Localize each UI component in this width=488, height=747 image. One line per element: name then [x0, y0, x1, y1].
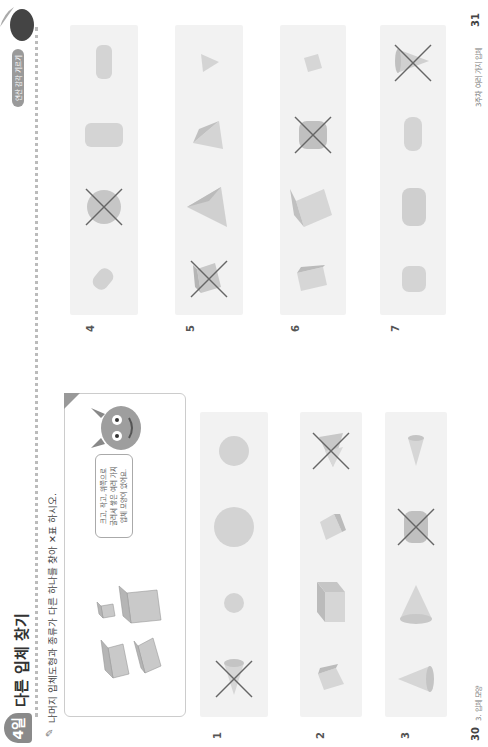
problem-number: 3	[400, 732, 411, 739]
problem-5-row	[175, 25, 243, 315]
choice-pyramid-large[interactable]	[175, 171, 243, 243]
cylinder-icon	[92, 43, 116, 83]
choice-cone[interactable]	[385, 641, 447, 717]
triangular-prism-icon	[313, 431, 349, 471]
choice-pyramid-small[interactable]	[175, 27, 243, 99]
header-dotted-divider	[35, 27, 38, 717]
bubble-line: 입체 모양이 있어요.	[119, 461, 129, 531]
problem-number: 1	[212, 732, 223, 739]
choice-prism[interactable]	[175, 243, 243, 315]
cube-icon	[314, 664, 348, 694]
choice-cuboid[interactable]	[300, 489, 362, 565]
cone-icon	[396, 581, 436, 625]
cuboid-icon	[295, 263, 331, 295]
choice-sphere[interactable]	[200, 413, 268, 489]
cube-icon	[290, 183, 336, 231]
choice-cone[interactable]	[380, 27, 446, 99]
monster-mascot-icon	[87, 400, 147, 458]
day-badge: 4일	[4, 713, 32, 743]
problem-2-row	[300, 412, 362, 717]
instruction-text: 나머지 입체도형과 종류가 다른 하나를 찾아 ✕표 하시오.	[45, 493, 59, 723]
choice-cone-large[interactable]	[385, 565, 447, 641]
choice-sphere-small[interactable]	[200, 565, 268, 641]
cylinder-icon	[398, 115, 428, 155]
prism-icon	[191, 259, 227, 299]
choice-cube-large[interactable]	[280, 171, 346, 243]
choice-cube-small[interactable]	[280, 27, 346, 99]
choice-cone-small[interactable]	[385, 413, 447, 489]
example-shapes	[83, 568, 173, 688]
problem-number: 7	[390, 325, 401, 332]
cylinder-icon	[293, 115, 333, 155]
mascot-corner-icon	[0, 3, 36, 47]
choice-cone[interactable]	[200, 641, 268, 717]
problem-number: 2	[315, 732, 326, 739]
page-title: 다른 입체 찾기	[10, 613, 31, 707]
right-footer-label: 3주차 여러 가지 입체	[473, 48, 483, 107]
sphere-icon	[212, 505, 256, 549]
pencil-icon: ✎	[44, 729, 55, 737]
choice-cylinder-tall[interactable]	[380, 171, 446, 243]
example-box: 크고, 작고, 위쪽으로 굴러서 쌓은 여러 가지 입체 모양이 있어요.	[64, 393, 186, 717]
speech-bubble: 크고, 작고, 위쪽으로 굴러서 쌓은 여러 가지 입체 모양이 있어요.	[95, 454, 133, 538]
right-page-number: 31	[470, 13, 481, 27]
choice-pyramid[interactable]	[175, 99, 243, 171]
sphere-icon	[84, 187, 124, 227]
cylinder-icon	[396, 262, 430, 296]
choice-cuboid-large[interactable]	[300, 565, 362, 641]
problem-4-row	[70, 25, 138, 315]
choice-cube[interactable]	[300, 641, 362, 717]
cone-icon	[404, 434, 428, 468]
problem-1-row	[200, 412, 268, 717]
problem-number: 5	[185, 325, 196, 332]
problem-6-row	[280, 25, 346, 315]
cylinder-icon	[396, 507, 436, 547]
cuboid-icon	[316, 510, 346, 544]
choice-cylinder-flat[interactable]	[380, 99, 446, 171]
left-footer-label: 3. 입체 모양	[473, 686, 483, 721]
choice-sphere-large[interactable]	[200, 489, 268, 565]
cube-icon	[300, 50, 326, 76]
choice-sphere[interactable]	[70, 171, 138, 243]
choice-cylinder-lying[interactable]	[70, 99, 138, 171]
bubble-line: 크고, 작고, 위쪽으로	[99, 461, 109, 531]
book-spread: 4일 다른 입체 찾기 ✎ 나머지 입체도형과 종류가 다른 하나를 찾아 ✕표…	[0, 0, 488, 747]
problem-number: 4	[85, 325, 96, 332]
choice-cylinder-short[interactable]	[380, 243, 446, 315]
cylinder-icon	[89, 264, 119, 294]
pyramid-icon	[189, 117, 229, 153]
choice-cylinder[interactable]	[385, 489, 447, 565]
pyramid-icon	[185, 183, 233, 231]
page-fold-icon	[64, 393, 80, 409]
choice-cuboid[interactable]	[280, 243, 346, 315]
problem-number: 6	[290, 325, 301, 332]
choice-cylinder[interactable]	[280, 99, 346, 171]
choice-cylinder-tall[interactable]	[70, 27, 138, 99]
problem-7-row	[380, 25, 446, 315]
choice-triangular-prism[interactable]	[300, 413, 362, 489]
bubble-line: 굴러서 쌓은 여러 가지	[109, 461, 119, 531]
pyramid-icon	[197, 50, 221, 76]
choice-cylinder-small[interactable]	[70, 243, 138, 315]
cone-icon	[393, 43, 433, 83]
cone-icon	[396, 662, 436, 696]
cone-icon	[212, 657, 256, 701]
cuboid-icon	[313, 580, 349, 626]
section-chip: 연산 감각 기르기	[12, 49, 24, 107]
left-page-number: 30	[470, 727, 481, 741]
cylinder-icon	[81, 117, 127, 153]
cylinder-icon	[396, 184, 430, 230]
sphere-icon	[217, 434, 251, 468]
problem-3-row	[385, 412, 447, 717]
sphere-icon	[222, 591, 246, 615]
